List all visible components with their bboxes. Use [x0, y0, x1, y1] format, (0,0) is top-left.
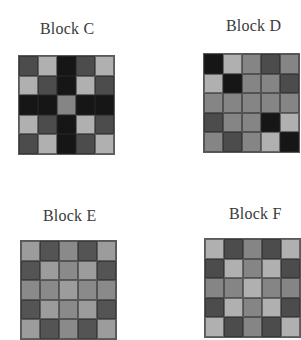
quilt-cell [21, 261, 40, 281]
quilt-cell [76, 56, 95, 76]
quilt-cell [19, 76, 38, 96]
quilt-cell [243, 239, 262, 259]
quilt-cell [59, 261, 78, 281]
quilt-cell [57, 56, 76, 76]
block-f-grid [204, 238, 301, 338]
quilt-cell [76, 95, 95, 115]
quilt-cell [223, 54, 242, 74]
quilt-cell [243, 278, 262, 298]
quilt-cell [261, 113, 280, 133]
quilt-cell [262, 239, 281, 259]
quilt-cell [78, 241, 97, 261]
quilt-cell [261, 132, 280, 152]
quilt-cell [223, 93, 242, 113]
quilt-cell [40, 319, 59, 339]
quilt-cell [224, 259, 243, 279]
quilt-cell [97, 280, 116, 300]
quilt-cell [243, 259, 262, 279]
quilt-cell [262, 278, 281, 298]
quilt-cell [223, 113, 242, 133]
quilt-cell [40, 261, 59, 281]
quilt-cell [21, 280, 40, 300]
quilt-cell [59, 241, 78, 261]
quilt-cell [224, 317, 243, 337]
quilt-cell [21, 300, 40, 320]
quilt-cell [261, 54, 280, 74]
quilt-cell [205, 317, 224, 337]
quilt-cell [280, 74, 299, 94]
quilt-cell [205, 298, 224, 318]
quilt-cell [57, 76, 76, 96]
quilt-cell [95, 115, 114, 135]
quilt-cell [223, 132, 242, 152]
quilt-cell [40, 241, 59, 261]
quilt-cell [281, 259, 300, 279]
quilt-cell [204, 74, 223, 94]
quilt-cell [242, 74, 261, 94]
quilt-cell [19, 95, 38, 115]
block-d-grid [203, 53, 300, 153]
quilt-cell [59, 280, 78, 300]
quilt-cell [242, 113, 261, 133]
quilt-cell [40, 280, 59, 300]
quilt-cell [19, 56, 38, 76]
quilt-cell [95, 56, 114, 76]
quilt-cell [205, 278, 224, 298]
quilt-cell [21, 241, 40, 261]
quilt-cell [78, 261, 97, 281]
quilt-cell [38, 76, 57, 96]
quilt-cell [205, 239, 224, 259]
quilt-cell [40, 300, 59, 320]
quilt-cell [280, 54, 299, 74]
quilt-cell [38, 134, 57, 154]
quilt-cell [205, 259, 224, 279]
quilt-cell [224, 298, 243, 318]
quilt-cell [19, 134, 38, 154]
quilt-cell [243, 298, 262, 318]
quilt-cell [38, 95, 57, 115]
quilt-cell [76, 115, 95, 135]
quilt-cell [261, 93, 280, 113]
quilt-cell [204, 93, 223, 113]
quilt-cell [95, 134, 114, 154]
quilt-cell [21, 319, 40, 339]
quilt-cell [204, 113, 223, 133]
quilt-cell [262, 317, 281, 337]
block-f-label: Block F [229, 205, 282, 223]
quilt-cell [57, 115, 76, 135]
quilt-cell [57, 95, 76, 115]
quilt-cell [262, 298, 281, 318]
quilt-cell [97, 241, 116, 261]
quilt-cell [281, 239, 300, 259]
quilt-cell [95, 76, 114, 96]
quilt-cell [242, 54, 261, 74]
quilt-cell [59, 319, 78, 339]
quilt-cell [242, 132, 261, 152]
quilt-cell [59, 300, 78, 320]
quilt-cell [280, 113, 299, 133]
quilt-cell [76, 76, 95, 96]
quilt-cell [204, 132, 223, 152]
quilt-cell [280, 93, 299, 113]
quilt-cell [281, 298, 300, 318]
quilt-cell [38, 115, 57, 135]
quilt-cell [262, 259, 281, 279]
quilt-cell [243, 317, 262, 337]
quilt-cell [224, 278, 243, 298]
quilt-cell [280, 132, 299, 152]
quilt-cell [223, 74, 242, 94]
quilt-cell [281, 317, 300, 337]
quilt-cell [261, 74, 280, 94]
quilt-cell [57, 134, 76, 154]
quilt-cell [78, 319, 97, 339]
quilt-cell [281, 278, 300, 298]
quilt-cell [19, 115, 38, 135]
block-c-label: Block C [40, 20, 94, 38]
block-e-grid [20, 240, 117, 340]
quilt-cell [38, 56, 57, 76]
quilt-cell [95, 95, 114, 115]
quilt-cell [76, 134, 95, 154]
quilt-cell [97, 261, 116, 281]
quilt-cell [97, 319, 116, 339]
block-e-label: Block E [43, 207, 96, 225]
